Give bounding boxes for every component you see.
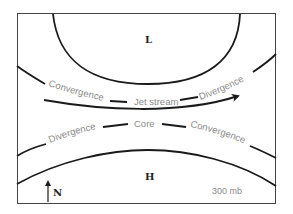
pressure-level-label: 300 mb bbox=[212, 186, 242, 196]
low-isobar bbox=[53, 14, 240, 84]
upper-isobar bbox=[17, 66, 45, 84]
lower-left-divergence-label: Divergence bbox=[47, 120, 97, 144]
low-pressure-label: L bbox=[145, 34, 152, 45]
upper-right-divergence-label: Divergence bbox=[197, 73, 245, 102]
core-label: Core bbox=[134, 118, 155, 129]
lower-right-convergence-label: Convergence bbox=[190, 118, 248, 145]
north-label: N bbox=[53, 187, 62, 198]
lower-isobar bbox=[17, 144, 46, 156]
high-pressure-label: H bbox=[145, 171, 154, 182]
north-arrow-icon bbox=[45, 180, 51, 202]
upper-left-convergence-label: Convergence bbox=[48, 77, 105, 102]
jet-stream-label: Jet stream bbox=[134, 96, 178, 107]
jet-stream-diagram: L H Convergence Jet stream Divergence Di… bbox=[0, 0, 293, 214]
